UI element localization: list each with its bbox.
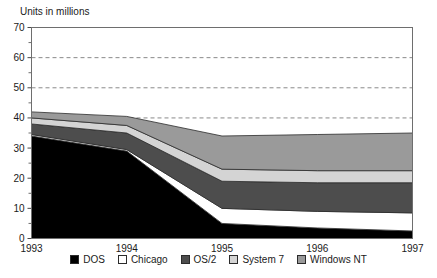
legend-swatch-icon bbox=[229, 255, 238, 264]
x-tick-label-1995: 1995 bbox=[211, 243, 234, 254]
x-tick-label-1997: 1997 bbox=[401, 243, 424, 254]
x-axis-tick-labels: 19931994199519961997 bbox=[20, 243, 424, 254]
plot-area: 010203040506070 19931994199519961997 bbox=[0, 0, 437, 278]
y-axis-tick-labels: 010203040506070 bbox=[13, 22, 25, 244]
x-tick-label-1994: 1994 bbox=[116, 243, 139, 254]
y-tick-label-20: 20 bbox=[13, 173, 25, 184]
legend-item-system-7[interactable]: System 7 bbox=[229, 254, 284, 265]
y-tick-label-70: 70 bbox=[13, 22, 25, 33]
legend-item-windows-nt[interactable]: Windows NT bbox=[297, 254, 367, 265]
legend-label: Windows NT bbox=[310, 254, 367, 265]
chart-legend: DOSChicagoOS/2System 7Windows NT bbox=[0, 254, 437, 265]
x-tick-label-1996: 1996 bbox=[306, 243, 329, 254]
y-tick-label-60: 60 bbox=[13, 52, 25, 63]
legend-item-chicago[interactable]: Chicago bbox=[118, 254, 168, 265]
y-tick-label-30: 30 bbox=[13, 143, 25, 154]
legend-swatch-icon bbox=[70, 255, 79, 264]
legend-label: System 7 bbox=[242, 254, 284, 265]
area-series-group bbox=[32, 112, 413, 239]
y-minor-ticks bbox=[28, 28, 32, 239]
y-tick-label-10: 10 bbox=[13, 203, 25, 214]
y-tick-label-50: 50 bbox=[13, 82, 25, 93]
legend-label: DOS bbox=[83, 254, 105, 265]
legend-item-dos[interactable]: DOS bbox=[70, 254, 105, 265]
legend-label: Chicago bbox=[131, 254, 168, 265]
legend-swatch-icon bbox=[297, 255, 306, 264]
legend-swatch-icon bbox=[118, 255, 127, 264]
legend-swatch-icon bbox=[181, 255, 190, 264]
legend-item-os-2[interactable]: OS/2 bbox=[181, 254, 217, 265]
stacked-area-chart: Units in millions 010203040506070 199319… bbox=[0, 0, 437, 278]
y-tick-label-40: 40 bbox=[13, 112, 25, 123]
x-tick-label-1993: 1993 bbox=[20, 243, 43, 254]
legend-label: OS/2 bbox=[194, 254, 217, 265]
